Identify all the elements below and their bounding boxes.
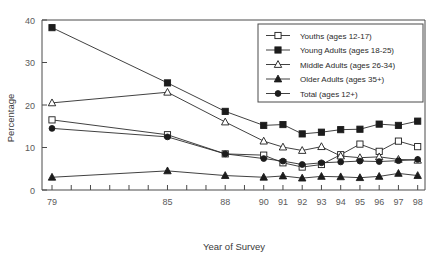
data-point-marker bbox=[395, 170, 402, 177]
x-tick-label: 95 bbox=[355, 197, 365, 207]
x-tick-label: 96 bbox=[374, 197, 384, 207]
y-tick-label: 10 bbox=[25, 143, 35, 153]
data-point-marker bbox=[396, 158, 402, 164]
data-point-marker bbox=[299, 162, 305, 168]
data-point-marker bbox=[357, 126, 363, 132]
x-tick-label: 88 bbox=[220, 197, 230, 207]
x-tick-label: 92 bbox=[297, 197, 307, 207]
x-tick-label: 79 bbox=[47, 197, 57, 207]
x-tick-label: 91 bbox=[278, 197, 288, 207]
legend-label: Older Adults (ages 35+) bbox=[300, 75, 385, 84]
legend-label: Total (ages 12+) bbox=[300, 90, 358, 99]
data-point-marker bbox=[164, 88, 171, 95]
data-point-marker bbox=[261, 156, 267, 162]
data-point-marker bbox=[280, 121, 286, 127]
x-tick-label: 98 bbox=[413, 197, 423, 207]
data-point-marker bbox=[357, 158, 363, 164]
data-point-marker bbox=[222, 151, 228, 157]
data-point-marker bbox=[376, 121, 382, 127]
data-point-marker bbox=[357, 141, 363, 147]
data-point-marker bbox=[318, 143, 325, 150]
series-4 bbox=[49, 125, 420, 167]
data-point-marker bbox=[260, 137, 267, 144]
y-axis-title: Percentage bbox=[5, 94, 16, 143]
data-point-marker bbox=[415, 157, 421, 163]
data-point-marker bbox=[376, 159, 382, 165]
data-point-marker bbox=[165, 134, 171, 140]
data-point-marker bbox=[395, 138, 401, 144]
data-point-marker bbox=[318, 129, 324, 135]
data-point-marker bbox=[164, 80, 170, 86]
data-point-marker bbox=[49, 117, 55, 123]
series-0 bbox=[49, 117, 421, 170]
x-tick-label: 90 bbox=[259, 197, 269, 207]
data-point-marker bbox=[395, 122, 401, 128]
data-point-marker bbox=[299, 131, 305, 137]
data-point-marker bbox=[275, 91, 281, 97]
y-axis-ticks: 010203040 bbox=[25, 16, 47, 196]
x-axis-title: Year of Survey bbox=[203, 241, 265, 252]
x-tick-label: 93 bbox=[316, 197, 326, 207]
x-tick-label: 97 bbox=[393, 197, 403, 207]
x-axis-ticks: 798588909192939495969798 bbox=[47, 185, 423, 207]
legend-label: Youths (ages 12-17) bbox=[300, 32, 372, 41]
chart-legend: Youths (ages 12-17)Young Adults (ages 18… bbox=[258, 24, 423, 102]
legend-label: Middle Adults (ages 26-34) bbox=[300, 61, 396, 70]
data-point-marker bbox=[318, 173, 325, 180]
data-point-marker bbox=[222, 108, 228, 114]
y-tick-label: 40 bbox=[25, 16, 35, 26]
data-point-marker bbox=[319, 160, 325, 166]
data-point-marker bbox=[275, 47, 281, 53]
y-tick-label: 30 bbox=[25, 58, 35, 68]
data-point-marker bbox=[415, 118, 421, 124]
data-point-marker bbox=[222, 118, 229, 125]
series-line bbox=[52, 171, 418, 178]
y-tick-label: 0 bbox=[30, 186, 35, 196]
legend-label: Young Adults (ages 18-25) bbox=[300, 46, 394, 55]
data-point-marker bbox=[275, 32, 281, 38]
data-point-marker bbox=[49, 25, 55, 31]
chart-canvas: 798588909192939495969798 010203040 Youth… bbox=[0, 0, 438, 258]
data-point-marker bbox=[415, 144, 421, 150]
x-tick-label: 85 bbox=[162, 197, 172, 207]
data-point-marker bbox=[338, 159, 344, 165]
x-tick-label: 94 bbox=[336, 197, 346, 207]
y-tick-label: 20 bbox=[25, 101, 35, 111]
data-point-marker bbox=[261, 122, 267, 128]
data-point-marker bbox=[49, 125, 55, 131]
data-point-marker bbox=[279, 172, 286, 179]
data-point-marker bbox=[280, 158, 286, 164]
data-point-marker bbox=[164, 167, 171, 174]
series-3 bbox=[48, 167, 421, 181]
data-point-marker bbox=[338, 127, 344, 133]
line-chart: 798588909192939495969798 010203040 Youth… bbox=[0, 0, 438, 258]
